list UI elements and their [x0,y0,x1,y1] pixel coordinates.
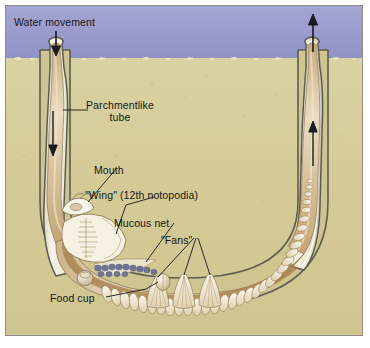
diagram-canvas [6,6,362,335]
figure-parchment-tube-worm: Water movement Parchmentlike tube Mouth … [0,0,370,348]
diagram-plate: Water movement Parchmentlike tube Mouth … [5,5,363,336]
food-cup-structure [77,271,93,286]
